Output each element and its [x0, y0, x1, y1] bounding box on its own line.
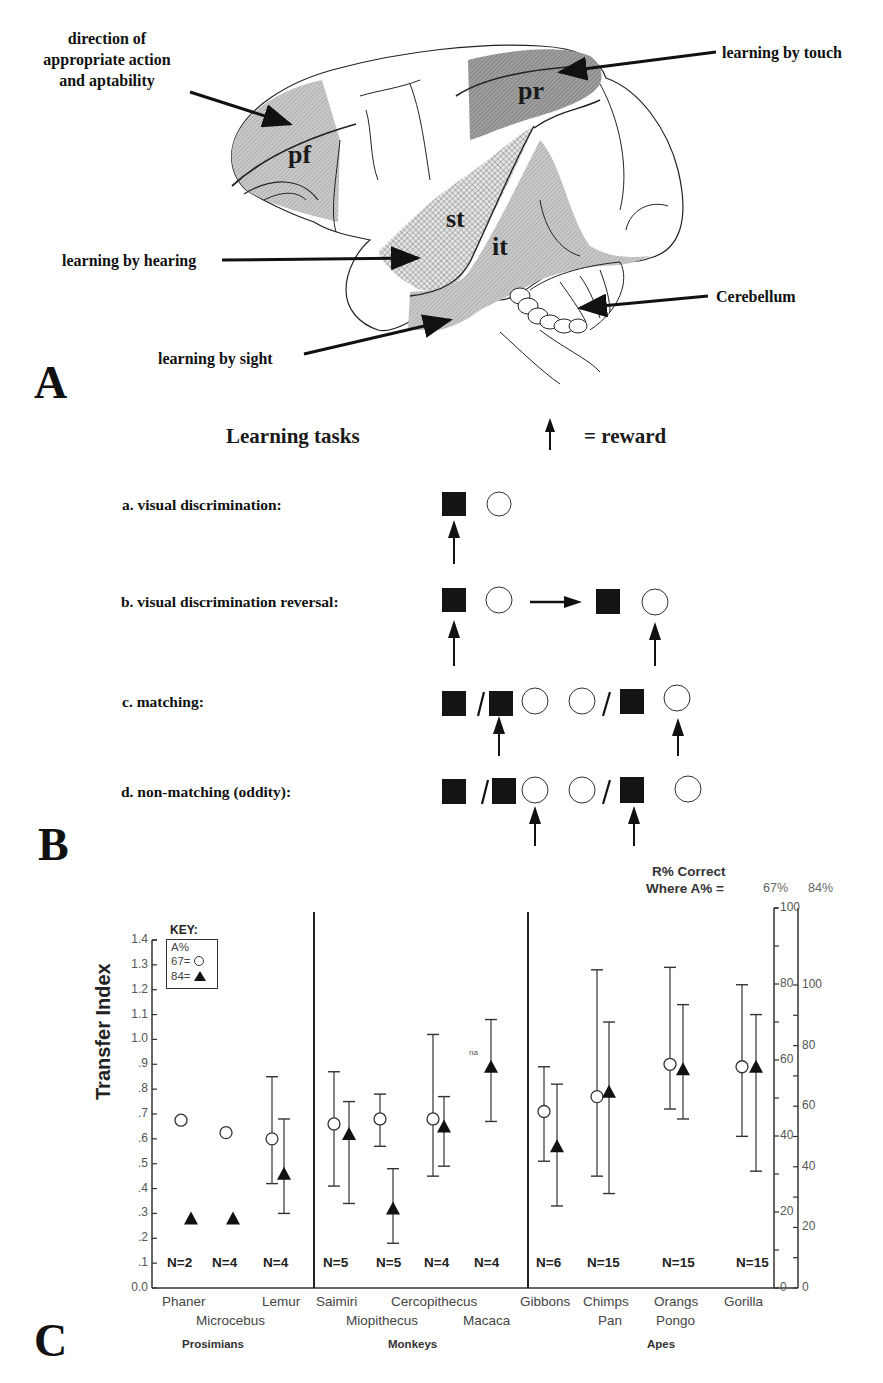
key-header: A%: [171, 941, 189, 953]
data-point-circle: [175, 1114, 187, 1126]
data-point-triangle: [550, 1139, 564, 1152]
data-point-triangle: [676, 1062, 690, 1075]
key-row-67: 67=: [171, 955, 204, 967]
data-point-circle: [328, 1118, 340, 1130]
data-point-triangle: [749, 1060, 763, 1073]
y-tick-label: 0.0: [114, 1280, 148, 1294]
data-point-triangle: [277, 1167, 291, 1180]
sample-size-label: N=2: [167, 1255, 192, 1270]
category-label: Pongo: [656, 1313, 695, 1328]
data-point-circle: [220, 1127, 232, 1139]
key-row-67-label: 67=: [171, 955, 191, 967]
right-tick-67: 20: [780, 1204, 793, 1218]
y-tick-label: .7: [114, 1106, 148, 1120]
data-point-triangle: [386, 1201, 400, 1214]
key-row-84-label: 84=: [171, 970, 191, 982]
right-axis-67-label: 67%: [763, 881, 788, 895]
category-label: Gibbons: [520, 1294, 570, 1309]
data-point-circle: [538, 1106, 550, 1118]
key-row-84: 84=: [171, 970, 206, 982]
data-point-circle: [591, 1091, 603, 1103]
key-title: KEY:: [170, 923, 198, 937]
data-point-triangle: [226, 1211, 240, 1224]
category-label: Phaner: [162, 1294, 206, 1309]
sample-size-label: N=15: [587, 1255, 620, 1270]
filled-triangle-icon: [194, 971, 206, 981]
y-tick-label: .6: [114, 1131, 148, 1145]
y-tick-label: 1.4: [114, 932, 148, 946]
data-point-triangle: [484, 1060, 498, 1073]
y-tick-label: .8: [114, 1081, 148, 1095]
data-point-circle: [427, 1113, 439, 1125]
y-tick-label: 1.3: [114, 957, 148, 971]
category-label: Pan: [598, 1313, 622, 1328]
data-point-triangle: [602, 1085, 616, 1098]
category-label: Lemur: [262, 1294, 300, 1309]
right-tick-84: 80: [802, 1038, 815, 1052]
group-label-monkeys: Monkeys: [388, 1338, 437, 1350]
right-tick-84: 100: [802, 977, 822, 991]
sample-size-label: N=4: [474, 1255, 499, 1270]
sample-size-label: N=6: [536, 1255, 561, 1270]
category-label: Orangs: [654, 1294, 698, 1309]
category-label: Microcebus: [196, 1313, 265, 1328]
y-axis-label: Transfer Index: [92, 963, 115, 1100]
right-tick-84: 20: [802, 1219, 815, 1233]
sample-size-label: N=15: [662, 1255, 695, 1270]
y-tick-label: .1: [114, 1255, 148, 1269]
na-note: na: [469, 1048, 478, 1057]
right-tick-67: 0: [780, 1280, 787, 1294]
sample-size-label: N=5: [323, 1255, 348, 1270]
category-label: Cercopithecus: [391, 1294, 477, 1309]
y-tick-label: .2: [114, 1230, 148, 1244]
category-label: Macaca: [463, 1313, 510, 1328]
y-tick-label: .4: [114, 1181, 148, 1195]
right-tick-84: 60: [802, 1098, 815, 1112]
data-point-circle: [266, 1133, 278, 1145]
data-point-circle: [664, 1058, 676, 1070]
transfer-index-chart: [0, 0, 883, 1383]
right-tick-84: 0: [802, 1280, 809, 1294]
right-axis-title-2: Where A% =: [646, 881, 724, 896]
y-tick-label: .3: [114, 1205, 148, 1219]
open-circle-icon: [194, 956, 204, 966]
data-point-triangle: [184, 1211, 198, 1224]
data-point-circle: [736, 1061, 748, 1073]
right-tick-67: 100: [780, 900, 800, 914]
data-point-circle: [374, 1113, 386, 1125]
right-axis-title-1: R% Correct: [652, 864, 726, 879]
sample-size-label: N=4: [263, 1255, 288, 1270]
group-label-apes: Apes: [647, 1338, 675, 1350]
category-label: Miopithecus: [346, 1313, 418, 1328]
legend-box: A% 67= 84=: [166, 939, 218, 989]
sample-size-label: N=4: [212, 1255, 237, 1270]
y-tick-label: .9: [114, 1056, 148, 1070]
y-tick-label: .5: [114, 1156, 148, 1170]
y-tick-label: 1.0: [114, 1031, 148, 1045]
category-label: Gorilla: [724, 1294, 763, 1309]
data-point-triangle: [342, 1127, 356, 1140]
sample-size-label: N=15: [736, 1255, 769, 1270]
sample-size-label: N=4: [424, 1255, 449, 1270]
category-label: Chimps: [583, 1294, 629, 1309]
right-tick-67: 80: [780, 976, 793, 990]
right-tick-84: 40: [802, 1159, 815, 1173]
group-label-prosimians: Prosimians: [182, 1338, 244, 1350]
category-label: Saimiri: [316, 1294, 357, 1309]
panel-letter-c: C: [34, 1314, 67, 1367]
y-tick-label: 1.1: [114, 1007, 148, 1021]
right-tick-67: 40: [780, 1128, 793, 1142]
y-tick-label: 1.2: [114, 982, 148, 996]
right-tick-67: 60: [780, 1052, 793, 1066]
sample-size-label: N=5: [376, 1255, 401, 1270]
right-axis-84-label: 84%: [808, 881, 833, 895]
